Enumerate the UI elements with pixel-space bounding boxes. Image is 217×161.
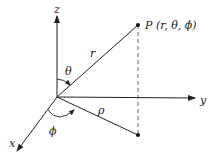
theta-label: θ: [65, 65, 72, 78]
phi-label: ϕ: [49, 125, 57, 138]
z-axis-label: z: [53, 3, 60, 16]
point-projection: [136, 133, 140, 137]
y-axis-label: y: [199, 94, 207, 107]
point-p: [136, 23, 140, 27]
phi-arc: [48, 110, 74, 117]
r-label: r: [90, 47, 96, 60]
x-axis: [17, 97, 57, 151]
x-axis-label: x: [9, 137, 16, 150]
rho-label: ρ: [97, 104, 105, 117]
spherical-coordinates-diagram: z y x P (r, θ, ϕ) r θ ϕ ρ: [0, 0, 217, 161]
theta-arc: [57, 79, 70, 85]
r-vector: [57, 25, 138, 97]
point-p-label: P (r, θ, ϕ): [144, 19, 197, 32]
y-axis: [57, 97, 195, 98]
